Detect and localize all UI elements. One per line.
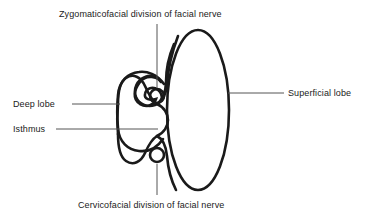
label-deep-lobe: Deep lobe xyxy=(13,99,55,110)
superficial-lobe-outline xyxy=(167,30,229,190)
label-zygomaticofacial-division: Zygomaticofacial division of facial nerv… xyxy=(59,9,222,20)
figure-canvas: Zygomaticofacial division of facial nerv… xyxy=(0,0,374,222)
label-cervicofacial-division: Cervicofacial division of facial nerve xyxy=(78,200,224,211)
parotid-gland-diagram xyxy=(0,0,374,222)
cervicofacial-nerve-circle xyxy=(150,148,164,162)
label-superficial-lobe: Superficial lobe xyxy=(288,88,351,99)
label-isthmus: Isthmus xyxy=(13,124,45,135)
